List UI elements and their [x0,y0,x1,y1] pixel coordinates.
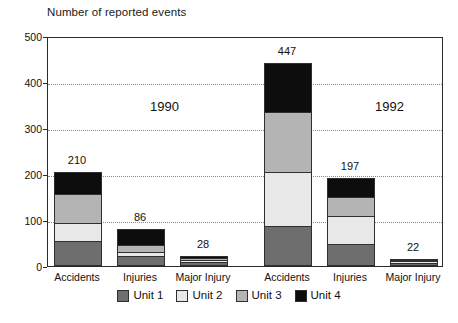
x-axis-category-label: Major Injury [368,272,458,283]
y-axis-tick-label: 400 [2,78,42,89]
gridline [48,84,442,85]
legend-label: Unit 4 [311,290,341,302]
stacked-bar-chart: Number of reported events 01002003004005… [0,0,458,323]
legend-label: Unit 2 [192,290,222,302]
bar-segment[interactable] [264,112,312,173]
bar-stack[interactable] [264,63,312,266]
y-axis-tick-label: 300 [2,124,42,135]
legend-item[interactable]: Unit 3 [236,290,282,302]
legend-item[interactable]: Unit 2 [176,290,222,302]
bar-stack[interactable] [54,172,102,266]
bar-segment[interactable] [264,226,312,266]
bar-segment[interactable] [327,178,375,197]
bar-segment[interactable] [117,256,165,266]
y-axis-tick-label: 500 [2,32,42,43]
bar-segment[interactable] [117,229,165,246]
y-axis-tick-label: 100 [2,216,42,227]
bar-segment[interactable] [327,216,375,245]
gridline [48,176,442,177]
legend-swatch-icon [295,290,307,302]
bar-value-label: 28 [163,239,243,250]
bar-segment[interactable] [390,263,438,266]
bar-segment[interactable] [54,172,102,195]
bar-segment[interactable] [327,244,375,266]
legend-label: Unit 1 [133,290,163,302]
bar-segment[interactable] [264,63,312,112]
legend-label: Unit 3 [252,290,282,302]
bar-segment[interactable] [327,197,375,218]
bar-segment[interactable] [264,172,312,227]
legend-swatch-icon [236,290,248,302]
bar-value-label: 197 [310,161,390,172]
bar-stack[interactable] [180,256,228,266]
bar-value-label: 22 [373,242,453,253]
y-axis-tick-label: 200 [2,170,42,181]
legend-item[interactable]: Unit 4 [295,290,341,302]
legend-swatch-icon [117,290,129,302]
x-axis-category-label: Major Injury [158,272,248,283]
bar-segment[interactable] [54,241,102,266]
gridline [48,130,442,131]
chart-legend: Unit 1Unit 2Unit 3Unit 4 [0,290,458,302]
bar-value-label: 86 [100,212,180,223]
group-year-label: 1990 [150,100,179,113]
bar-stack[interactable] [390,259,438,266]
bar-segment[interactable] [54,194,102,224]
bar-segment[interactable] [180,262,228,266]
legend-swatch-icon [176,290,188,302]
bar-segment[interactable] [54,223,102,241]
y-axis-tick-label: 0 [2,262,42,273]
bar-stack[interactable] [327,178,375,266]
y-axis-tick-mark [43,267,47,268]
bar-value-label: 447 [247,46,327,57]
bar-stack[interactable] [117,229,165,266]
group-year-label: 1992 [375,100,404,113]
legend-item[interactable]: Unit 1 [117,290,163,302]
plot-area [47,37,443,267]
bar-value-label: 210 [37,155,117,166]
